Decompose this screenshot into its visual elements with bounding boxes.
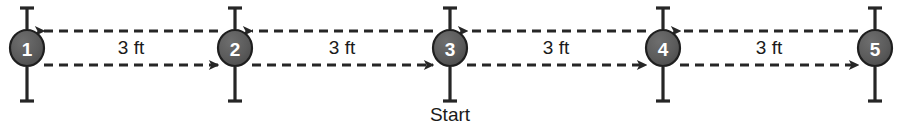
node-1: 1 xyxy=(10,30,44,66)
segment-4-5: 3 ft xyxy=(680,31,858,65)
segment-3-4: 3 ft xyxy=(467,31,646,65)
segment-1-2: 3 ft xyxy=(44,31,218,65)
node-4: 4 xyxy=(646,30,680,66)
distance-label: 3 ft xyxy=(543,37,570,58)
node-number: 4 xyxy=(658,39,669,60)
segment-2-3: 3 ft xyxy=(252,31,433,65)
distance-diagram: 3 ft3 ft3 ft3 ft 12345 Start xyxy=(0,0,897,127)
node-number: 5 xyxy=(870,39,881,60)
node-number: 2 xyxy=(230,39,241,60)
node-number: 1 xyxy=(22,39,33,60)
node-number: 3 xyxy=(445,39,456,60)
node-2: 2 xyxy=(218,30,252,66)
start-marker-layer: Start xyxy=(430,104,471,125)
distance-label: 3 ft xyxy=(118,37,145,58)
start-label: Start xyxy=(430,104,471,125)
diagram-canvas: 3 ft3 ft3 ft3 ft 12345 Start xyxy=(0,0,897,127)
node-5: 5 xyxy=(858,30,892,66)
distance-label: 3 ft xyxy=(756,37,783,58)
distance-label: 3 ft xyxy=(329,37,356,58)
node-3: 3 xyxy=(433,30,467,66)
